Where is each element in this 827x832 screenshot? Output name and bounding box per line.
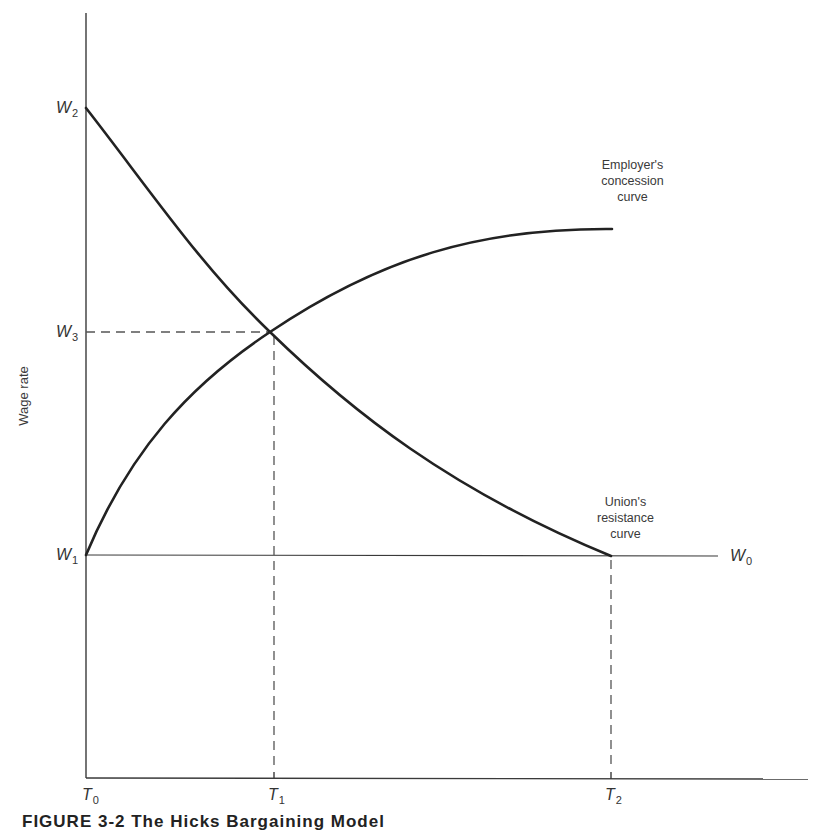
union-curve-annotation: Union's resistance curve [568, 494, 683, 542]
w0-label: W0 [730, 548, 752, 567]
employer-curve-annotation: Employer's concession curve [575, 157, 690, 205]
annotation-line: resistance [568, 510, 683, 526]
y-axis-title: Wage rate [16, 366, 31, 426]
x-label-t1: T1 [268, 787, 285, 806]
y-label-w1: W1 [56, 547, 78, 566]
figure-caption: FIGURE 3-2 The Hicks Bargaining Model [22, 812, 385, 832]
annotation-line: Employer's [575, 157, 690, 173]
x-label-t2: T2 [605, 787, 622, 806]
annotation-line: Union's [568, 494, 683, 510]
y-label-w2: W2 [56, 100, 78, 119]
w0-horizontal-line [86, 555, 718, 556]
annotation-line: curve [575, 189, 690, 205]
x-label-t0: T0 [82, 787, 99, 806]
y-label-w3: W3 [56, 324, 78, 343]
annotation-line: curve [568, 526, 683, 542]
employer-concession-curve [86, 229, 612, 555]
annotation-line: concession [575, 173, 690, 189]
x-axis [86, 778, 808, 779]
